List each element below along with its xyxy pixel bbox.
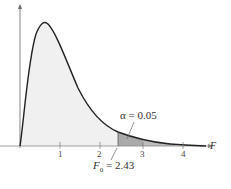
alpha-label: α = 0.05 [120, 109, 157, 121]
tick-3: 3 [140, 149, 145, 159]
tick-2: 2 [97, 149, 102, 159]
y-axis-arrow-icon [18, 4, 22, 9]
f0-label-value: = 2.43 [103, 159, 134, 171]
f0-label-main: F [93, 159, 100, 171]
tick-4: 4 [181, 149, 186, 159]
tick-1: 1 [58, 149, 63, 159]
x-axis-label: F [210, 140, 216, 151]
f0-label: F0 = 2.43 [93, 159, 134, 174]
